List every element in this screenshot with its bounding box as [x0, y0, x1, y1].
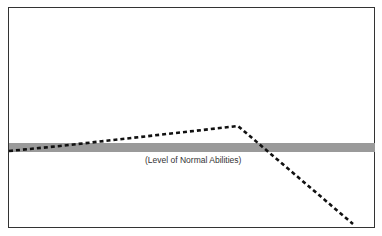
ability-trajectory-line: [9, 126, 353, 224]
normal-abilities-label: (Level of Normal Abilities): [145, 155, 241, 165]
normal-abilities-band: [9, 143, 375, 152]
ability-trajectory-plot: [0, 0, 382, 236]
